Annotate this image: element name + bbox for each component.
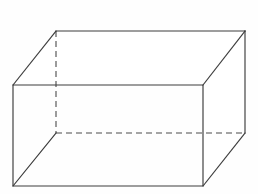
rectangular-prism-diagram [0, 0, 258, 194]
bottom-left-connector-edge [13, 133, 56, 186]
front-face-outline [13, 85, 203, 186]
figure-canvas [0, 0, 258, 194]
